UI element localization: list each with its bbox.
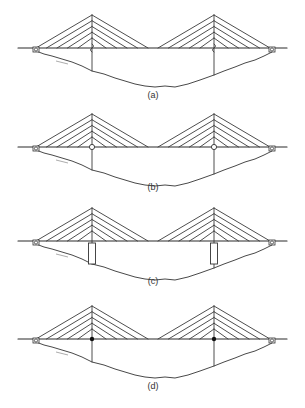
ground-profile [36,342,272,378]
roller-support-icon [34,48,37,51]
stay-cable [179,318,214,340]
ground-profile [36,244,272,280]
stay-cable [92,214,138,241]
panel-d: (d) [18,306,287,391]
ground-hatch [56,352,68,355]
panel-a: (a) [18,15,287,100]
ground-hatch [56,254,68,257]
ground-hatch [56,61,68,64]
stay-cable [57,318,92,340]
stay-cable [92,21,138,48]
stay-cable [47,214,93,241]
stay-cable [214,120,260,147]
roller-support-icon [34,241,37,244]
stay-cable [214,312,260,339]
stay-cable [47,312,93,339]
rigid-joint-icon [90,337,94,341]
stay-cable [92,126,127,148]
stay-cable [92,318,127,340]
pier [89,243,96,264]
stay-cable [92,312,138,339]
stay-cable [169,214,215,241]
stay-cable [57,27,92,49]
stay-cable [214,220,249,242]
ground-hatch [56,160,68,163]
pin-joint-icon [211,144,216,149]
stay-cable [179,27,214,49]
stay-cable [179,126,214,148]
ground-profile [36,150,272,186]
stay-cable [214,126,249,148]
cable-stayed-bridge-figure: (a)(b)(c)(d) [0,0,305,408]
stay-cable [57,220,92,242]
roller-support-icon [270,48,273,51]
stay-cable [179,220,214,242]
panel-label: (d) [148,381,159,391]
stay-cable [92,220,127,242]
stay-cable [169,312,215,339]
stay-cable [92,27,127,49]
stay-cable [214,27,249,49]
stay-cable [92,120,138,147]
stay-cable [47,120,93,147]
stay-cable [169,21,215,48]
pin-joint-icon [89,144,94,149]
panel-label: (b) [148,182,159,192]
stay-cable [57,126,92,148]
panel-b: (b) [18,114,287,192]
stay-cable [47,21,93,48]
ground-profile [36,51,272,87]
stay-cable [214,318,249,340]
rigid-joint-icon [212,337,216,341]
roller-support-icon [270,339,273,342]
roller-support-icon [270,147,273,150]
stay-cable [214,21,260,48]
pier [211,243,218,264]
stay-cable [169,120,215,147]
panel-label: (c) [148,276,159,286]
panel-c: (c) [18,208,287,286]
roller-support-icon [270,241,273,244]
roller-support-icon [34,147,37,150]
roller-support-icon [34,339,37,342]
stay-cable [214,214,260,241]
panel-label: (a) [148,90,159,100]
